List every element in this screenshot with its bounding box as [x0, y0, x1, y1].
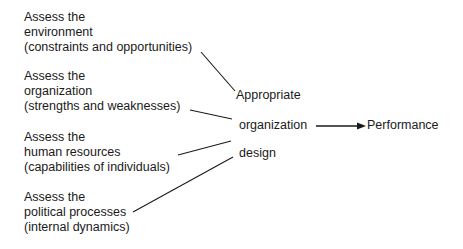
input-line: organization	[24, 84, 180, 99]
center-label-design: design	[239, 146, 276, 161]
input-line: (capabilities of individuals)	[24, 160, 170, 175]
input-line: environment	[24, 25, 192, 40]
input-line: Assess the	[24, 10, 192, 25]
input-line: (internal dynamics)	[24, 220, 130, 235]
input-line: Assess the	[24, 69, 180, 84]
input-line: (constraints and opportunities)	[24, 40, 192, 55]
input-line: Assess the	[24, 190, 130, 205]
input-human-resources: Assess the human resources (capabilities…	[24, 130, 170, 175]
arrowhead-icon	[357, 123, 366, 130]
input-line: (strengths and weaknesses)	[24, 99, 180, 114]
input-line: human resources	[24, 145, 170, 160]
input-line: political processes	[24, 205, 130, 220]
connector-organization	[190, 110, 232, 119]
center-label-appropriate: Appropriate	[236, 88, 301, 103]
input-environment: Assess the environment (constraints and …	[24, 10, 192, 55]
output-performance: Performance	[367, 118, 439, 133]
input-organization: Assess the organization (strengths and w…	[24, 69, 180, 114]
connector-human-resources	[178, 141, 231, 155]
input-line: Assess the	[24, 130, 170, 145]
center-label-organization: organization	[239, 118, 307, 133]
input-political: Assess the political processes (internal…	[24, 190, 130, 235]
connector-environment	[201, 52, 235, 91]
